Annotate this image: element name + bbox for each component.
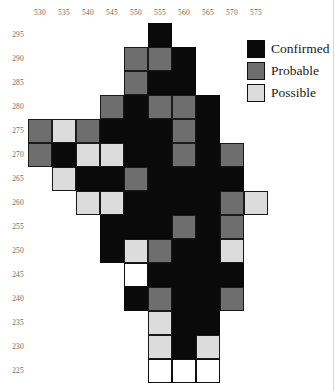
grid-cell[interactable]	[172, 143, 196, 167]
grid-cell[interactable]	[220, 143, 244, 167]
grid-cell[interactable]	[148, 119, 172, 143]
grid-cell[interactable]	[196, 215, 220, 239]
grid-cell[interactable]	[124, 95, 148, 119]
grid-cell[interactable]	[172, 263, 196, 287]
grid-cell[interactable]	[172, 119, 196, 143]
grid-cell[interactable]	[148, 95, 172, 119]
grid-cell[interactable]	[220, 167, 244, 191]
grid-cell[interactable]	[220, 239, 244, 263]
grid-cell[interactable]	[124, 167, 148, 191]
grid-cell[interactable]	[52, 167, 76, 191]
grid-cell[interactable]	[172, 287, 196, 311]
grid-cell[interactable]	[124, 71, 148, 95]
legend-label-confirmed: Confirmed	[271, 41, 330, 57]
grid-cell[interactable]	[148, 47, 172, 71]
legend-swatch-confirmed-icon	[247, 40, 265, 58]
grid-cell[interactable]	[196, 311, 220, 335]
legend-label-probable: Probable	[271, 63, 319, 79]
x-tick-560: 560	[172, 8, 196, 17]
grid-cell[interactable]	[148, 215, 172, 239]
y-tick-230: 230	[2, 342, 24, 352]
grid-cell[interactable]	[52, 119, 76, 143]
grid-cell[interactable]	[52, 143, 76, 167]
grid-cell[interactable]	[124, 263, 148, 287]
grid-cell[interactable]	[172, 335, 196, 359]
grid-cell[interactable]	[172, 47, 196, 71]
y-tick-235: 235	[2, 318, 24, 328]
grid-cell[interactable]	[196, 143, 220, 167]
grid-cell[interactable]	[148, 263, 172, 287]
grid-cell[interactable]	[124, 239, 148, 263]
grid-cell[interactable]	[220, 215, 244, 239]
grid-distribution-chart: 530535540545550555560565570575 295290285…	[0, 0, 334, 391]
grid-cell[interactable]	[196, 95, 220, 119]
grid-cell[interactable]	[172, 167, 196, 191]
grid-cell[interactable]	[220, 191, 244, 215]
x-tick-565: 565	[196, 8, 220, 17]
grid-cell[interactable]	[28, 119, 52, 143]
grid-cell[interactable]	[76, 143, 100, 167]
grid-cell[interactable]	[172, 215, 196, 239]
grid-cell[interactable]	[148, 239, 172, 263]
grid-cell[interactable]	[124, 47, 148, 71]
legend: Confirmed Probable Possible	[247, 38, 333, 104]
grid-cell[interactable]	[196, 287, 220, 311]
y-tick-225: 225	[2, 366, 24, 376]
grid-cell[interactable]	[148, 23, 172, 47]
grid-cell[interactable]	[148, 167, 172, 191]
legend-item-confirmed[interactable]: Confirmed	[247, 38, 330, 60]
grid-cell[interactable]	[172, 71, 196, 95]
grid-cell[interactable]	[148, 311, 172, 335]
grid-cell[interactable]	[100, 143, 124, 167]
grid-cell[interactable]	[124, 215, 148, 239]
grid-cell[interactable]	[148, 359, 172, 383]
grid-cell[interactable]	[100, 239, 124, 263]
grid-cell[interactable]	[100, 119, 124, 143]
grid-cell[interactable]	[28, 143, 52, 167]
grid-cell[interactable]	[148, 71, 172, 95]
x-tick-540: 540	[76, 8, 100, 17]
grid-cell[interactable]	[100, 191, 124, 215]
grid-cell[interactable]	[196, 167, 220, 191]
grid-cell[interactable]	[148, 191, 172, 215]
grid-cell[interactable]	[148, 143, 172, 167]
grid-cell[interactable]	[196, 335, 220, 359]
legend-item-probable[interactable]: Probable	[247, 60, 319, 82]
grid-cell[interactable]	[124, 287, 148, 311]
y-tick-275: 275	[2, 126, 24, 136]
grid-cell[interactable]	[172, 95, 196, 119]
y-tick-265: 265	[2, 174, 24, 184]
y-tick-250: 250	[2, 246, 24, 256]
grid-cell[interactable]	[196, 359, 220, 383]
grid-cell[interactable]	[196, 263, 220, 287]
grid-cell[interactable]	[220, 263, 244, 287]
grid-cell[interactable]	[124, 143, 148, 167]
legend-swatch-probable-icon	[247, 62, 265, 80]
grid-cell[interactable]	[100, 167, 124, 191]
grid-cell[interactable]	[76, 191, 100, 215]
plot-area	[28, 23, 268, 383]
grid-cell[interactable]	[100, 215, 124, 239]
y-tick-270: 270	[2, 150, 24, 160]
grid-cell[interactable]	[172, 191, 196, 215]
grid-cell[interactable]	[172, 359, 196, 383]
x-tick-550: 550	[124, 8, 148, 17]
grid-cell[interactable]	[76, 119, 100, 143]
grid-cell[interactable]	[124, 191, 148, 215]
grid-cell[interactable]	[196, 191, 220, 215]
x-tick-575: 575	[244, 8, 268, 17]
legend-item-possible[interactable]: Possible	[247, 82, 316, 104]
grid-cell[interactable]	[148, 287, 172, 311]
grid-cell[interactable]	[196, 239, 220, 263]
grid-cell[interactable]	[220, 287, 244, 311]
x-tick-570: 570	[220, 8, 244, 17]
grid-cell[interactable]	[100, 95, 124, 119]
grid-cell[interactable]	[124, 119, 148, 143]
grid-cell[interactable]	[196, 119, 220, 143]
grid-cell[interactable]	[244, 191, 268, 215]
grid-cell[interactable]	[148, 335, 172, 359]
grid-cell[interactable]	[76, 167, 100, 191]
grid-cell[interactable]	[172, 311, 196, 335]
y-tick-240: 240	[2, 294, 24, 304]
grid-cell[interactable]	[172, 239, 196, 263]
